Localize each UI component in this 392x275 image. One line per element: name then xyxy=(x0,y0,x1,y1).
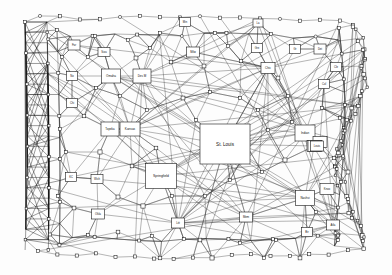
city-node-desmoines[interactable]: Des M xyxy=(133,69,151,83)
graph-node[interactable] xyxy=(340,52,343,55)
graph-node[interactable] xyxy=(346,249,349,252)
graph-node[interactable] xyxy=(350,216,353,219)
graph-node[interactable] xyxy=(154,146,158,150)
graph-node[interactable] xyxy=(347,211,350,214)
city-node-siouxfalls[interactable]: Siou xyxy=(98,48,110,57)
graph-node[interactable] xyxy=(288,254,291,257)
city-node-wichita[interactable]: Chi xyxy=(67,99,78,108)
graph-node[interactable] xyxy=(318,18,321,21)
graph-node[interactable] xyxy=(230,254,233,257)
graph-node[interactable] xyxy=(362,247,366,251)
graph-node[interactable] xyxy=(72,206,76,210)
graph-node[interactable] xyxy=(141,204,145,208)
graph-node[interactable] xyxy=(116,195,120,199)
graph-node[interactable] xyxy=(98,18,101,21)
graph-node[interactable] xyxy=(355,28,357,30)
graph-node[interactable] xyxy=(338,19,341,22)
graph-node[interactable] xyxy=(262,256,265,259)
graph-node[interactable] xyxy=(133,255,136,258)
city-node-topeka[interactable]: Topeka xyxy=(101,122,119,136)
graph-node[interactable] xyxy=(57,72,60,75)
graph-node[interactable] xyxy=(344,104,347,107)
graph-node[interactable] xyxy=(58,115,61,118)
graph-node[interactable] xyxy=(47,38,50,41)
graph-node[interactable] xyxy=(47,62,50,65)
graph-node[interactable] xyxy=(345,119,348,122)
graph-node[interactable] xyxy=(356,39,359,42)
city-node-atlanta[interactable]: Atla xyxy=(327,220,340,230)
graph-node[interactable] xyxy=(362,240,365,243)
graph-node[interactable] xyxy=(47,124,50,127)
graph-node[interactable] xyxy=(191,256,194,259)
graph-node[interactable] xyxy=(95,87,98,90)
graph-node[interactable] xyxy=(158,16,161,19)
graph-node[interactable] xyxy=(340,139,343,142)
graph-node[interactable] xyxy=(38,14,41,17)
graph-node[interactable] xyxy=(145,108,148,111)
graph-node[interactable] xyxy=(338,27,341,30)
graph-node[interactable] xyxy=(58,244,61,247)
graph-node[interactable] xyxy=(134,56,138,60)
graph-node[interactable] xyxy=(36,249,39,252)
graph-node[interactable] xyxy=(56,253,59,256)
city-node-oklahoma[interactable]: Okla xyxy=(92,209,105,219)
graph-node[interactable] xyxy=(276,76,280,80)
graph-node[interactable] xyxy=(351,25,354,28)
graph-node[interactable] xyxy=(26,83,29,86)
graph-node[interactable] xyxy=(58,158,61,161)
city-node-stlouis[interactable]: St. Louis xyxy=(200,124,250,164)
graph-node[interactable] xyxy=(342,155,345,158)
graph-node[interactable] xyxy=(363,77,366,80)
graph-node[interactable] xyxy=(118,15,121,18)
graph-node[interactable] xyxy=(239,59,242,62)
city-node-clevel[interactable]: Cle xyxy=(331,63,342,72)
graph-node[interactable] xyxy=(357,104,360,107)
city-node-kc2[interactable]: KC xyxy=(66,173,77,182)
city-node-fargo[interactable]: Far xyxy=(68,40,80,50)
graph-node[interactable] xyxy=(170,194,173,197)
graph-node[interactable] xyxy=(337,239,340,242)
graph-node[interactable] xyxy=(341,144,343,146)
graph-node[interactable] xyxy=(342,78,345,81)
graph-node[interactable] xyxy=(46,31,49,34)
graph-node[interactable] xyxy=(298,256,302,260)
graph-node[interactable] xyxy=(298,19,301,22)
graph-node[interactable] xyxy=(25,52,28,55)
city-node-wichita2[interactable]: Wich xyxy=(91,175,103,184)
graph-node[interactable] xyxy=(343,126,345,128)
graph-node[interactable] xyxy=(61,56,64,59)
graph-node[interactable] xyxy=(86,55,89,58)
city-node-lansing[interactable]: La xyxy=(253,19,263,27)
graph-node[interactable] xyxy=(130,164,134,168)
graph-node[interactable] xyxy=(314,210,317,213)
graph-node[interactable] xyxy=(227,238,230,241)
graph-node[interactable] xyxy=(210,256,214,260)
graph-node[interactable] xyxy=(362,73,366,77)
graph-node[interactable] xyxy=(180,34,183,37)
graph-node[interactable] xyxy=(24,238,27,241)
graph-node[interactable] xyxy=(354,112,357,115)
graph-node[interactable] xyxy=(360,224,363,227)
graph-node[interactable] xyxy=(257,109,260,112)
graph-node[interactable] xyxy=(336,184,339,187)
graph-node[interactable] xyxy=(361,90,364,93)
graph-node[interactable] xyxy=(238,16,241,19)
graph-node[interactable] xyxy=(159,32,162,35)
graph-node[interactable] xyxy=(314,35,317,38)
graph-node[interactable] xyxy=(65,151,68,154)
graph-node[interactable] xyxy=(344,181,346,183)
city-node-memphis[interactable]: Mem xyxy=(240,212,253,222)
graph-node[interactable] xyxy=(93,34,96,37)
graph-node[interactable] xyxy=(181,96,185,100)
city-node-chicago[interactable]: Chic xyxy=(261,63,275,74)
graph-node[interactable] xyxy=(286,94,289,97)
graph-node[interactable] xyxy=(239,97,242,100)
graph-node[interactable] xyxy=(116,230,120,234)
graph-node[interactable] xyxy=(343,129,346,132)
graph-node[interactable] xyxy=(332,156,335,159)
graph-node[interactable] xyxy=(336,148,338,150)
graph-node[interactable] xyxy=(57,195,60,198)
graph-node[interactable] xyxy=(198,238,202,242)
graph-node[interactable] xyxy=(334,232,337,235)
graph-node[interactable] xyxy=(56,29,59,32)
